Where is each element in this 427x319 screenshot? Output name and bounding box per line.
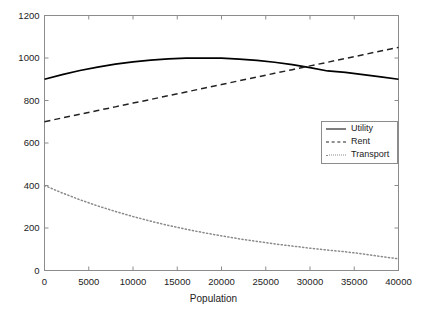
x-tick-label: 15000 bbox=[164, 277, 190, 287]
legend-swatch-dotted-line-icon bbox=[325, 150, 347, 160]
x-tick-label: 20000 bbox=[208, 277, 234, 287]
x-tick-label: 5000 bbox=[78, 277, 99, 287]
x-tick-label: 35000 bbox=[341, 277, 367, 287]
legend-swatch-dashed-line-icon bbox=[325, 137, 347, 147]
y-tick-label: 600 bbox=[24, 138, 40, 148]
x-tick-label: 10000 bbox=[120, 277, 146, 287]
x-axis-title: Population bbox=[0, 294, 427, 304]
legend-item-transport: Transport bbox=[322, 148, 397, 161]
y-tick-label: 1200 bbox=[18, 11, 39, 21]
x-tick-label: 30000 bbox=[297, 277, 323, 287]
y-tick-label: 800 bbox=[24, 96, 40, 106]
y-tick-label: 400 bbox=[24, 181, 40, 191]
x-tick-label: 40000 bbox=[385, 277, 411, 287]
y-tick-label: 0 bbox=[34, 266, 39, 276]
legend-item-rent: Rent bbox=[322, 135, 397, 148]
legend: Utility Rent Transport bbox=[321, 121, 398, 164]
legend-label-utility: Utility bbox=[347, 124, 373, 133]
y-tick-label: 200 bbox=[24, 223, 40, 233]
x-tick-label: 0 bbox=[42, 277, 47, 287]
figure-canvas: 020040060080010001200 050001000015000200… bbox=[0, 0, 427, 319]
legend-label-rent: Rent bbox=[347, 137, 370, 146]
legend-item-utility: Utility bbox=[322, 122, 397, 135]
legend-swatch-solid-line-icon bbox=[325, 124, 347, 134]
y-tick-label: 1000 bbox=[18, 53, 39, 63]
legend-label-transport: Transport bbox=[347, 150, 389, 159]
x-tick-label: 25000 bbox=[253, 277, 279, 287]
